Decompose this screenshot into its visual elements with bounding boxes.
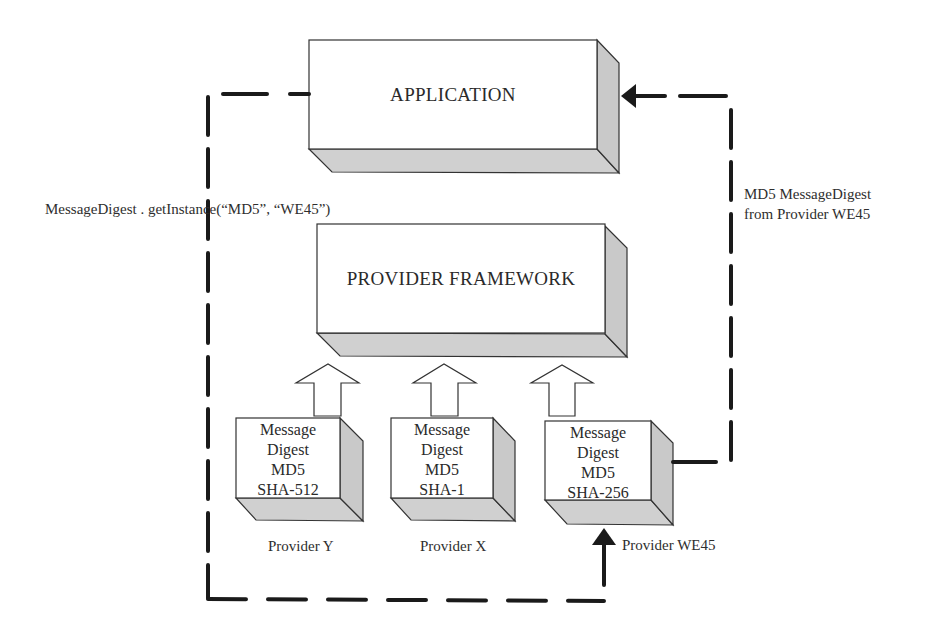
response-dashed-path — [635, 96, 731, 462]
provider-we45-line-2: Digest — [545, 443, 651, 463]
up-arrow-provider-x — [413, 364, 476, 416]
provider-we45-name: Provider WE45 — [622, 537, 715, 554]
provider-y-line-4: SHA-512 — [236, 480, 340, 500]
provider-we45-contents: Message Digest MD5 SHA-256 — [545, 423, 651, 503]
provider-y-line-3: MD5 — [236, 460, 340, 480]
provider-we45-line-4: SHA-256 — [545, 483, 651, 503]
application-box — [309, 40, 619, 173]
provider-framework-label: PROVIDER FRAMEWORK — [317, 268, 605, 290]
response-arrow-into-application — [621, 84, 636, 108]
response-label: MD5 MessageDigest from Provider WE45 — [744, 184, 871, 224]
up-arrow-provider-we45 — [531, 365, 593, 416]
application-label: APPLICATION — [309, 84, 597, 106]
provider-we45-line-1: Message — [545, 423, 651, 443]
provider-x-line-1: Message — [391, 420, 493, 440]
provider-y-line-2: Digest — [236, 440, 340, 460]
response-label-line-1: MD5 MessageDigest — [744, 184, 871, 204]
provider-x-line-3: MD5 — [391, 460, 493, 480]
provider-y-contents: Message Digest MD5 SHA-512 — [236, 420, 340, 500]
provider-y-line-1: Message — [236, 420, 340, 440]
response-label-line-2: from Provider WE45 — [744, 204, 871, 224]
provider-x-contents: Message Digest MD5 SHA-1 — [391, 420, 493, 500]
request-arrow-into-we45 — [592, 528, 616, 585]
provider-y-name: Provider Y — [268, 538, 334, 555]
provider-framework-box — [317, 224, 627, 357]
provider-x-name: Provider X — [420, 538, 486, 555]
up-arrow-provider-y — [296, 364, 359, 416]
provider-x-line-4: SHA-1 — [391, 480, 493, 500]
provider-x-line-2: Digest — [391, 440, 493, 460]
provider-we45-line-3: MD5 — [545, 463, 651, 483]
request-call-label: MessageDigest . getInstance(“MD5”, “WE45… — [45, 201, 330, 218]
